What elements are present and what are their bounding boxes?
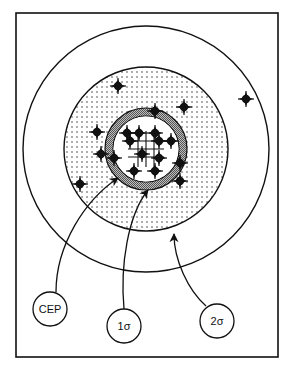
cep-target-diagram: CEP1σ2σ [0, 0, 293, 384]
label-text: CEP [39, 303, 62, 315]
two-sigma-leader-arrow [174, 234, 206, 306]
label-bubble-one-sigma: 1σ [107, 309, 141, 343]
circle-labels: CEP1σ2σ [33, 292, 234, 343]
label-text: 2σ [211, 315, 224, 327]
shot-impact-icon [238, 91, 254, 107]
label-text: 1σ [118, 320, 131, 332]
label-bubble-cep: CEP [33, 292, 67, 326]
label-bubble-two-sigma: 2σ [200, 304, 234, 338]
